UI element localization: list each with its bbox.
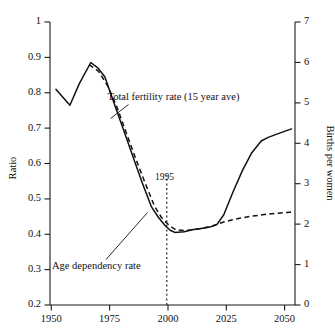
- age-dependency-rate-leader-line: [106, 213, 148, 260]
- age-dependency-rate-label: Age dependency rate: [52, 260, 141, 271]
- y-tick-label: 0.2: [28, 298, 41, 309]
- y2-tick-label: 5: [304, 96, 309, 107]
- y-tick-label: 0.9: [28, 51, 41, 62]
- y2-tick-label: 3: [304, 177, 309, 188]
- y-axis-left-title: Ratio: [7, 157, 18, 180]
- x-axis-ticks: [51, 305, 284, 311]
- y-tick-label: 0.3: [28, 263, 41, 274]
- y-tick-label: 0.8: [28, 86, 41, 97]
- x-axis-tick-labels: 1950 1975 2000 2025 2050: [41, 313, 295, 324]
- x-tick-label: 2050: [274, 313, 295, 324]
- series-age-dependency-rate: [56, 63, 292, 233]
- y2-tick-label: 1: [304, 258, 309, 269]
- y-axis-right-title: Births per women: [325, 125, 335, 201]
- x-tick-label: 2000: [158, 313, 179, 324]
- y-axis-right-ticks: [295, 22, 301, 305]
- line-chart: 1 0.9 0.8 0.7 0.6 0.5 0.4 0.3 0.2 7 6 5 …: [0, 0, 335, 336]
- x-tick-label: 2025: [216, 313, 237, 324]
- x-tick-label: 1975: [99, 313, 120, 324]
- y-axis-right-tick-labels: 7 6 5 4 3 2 1 0: [304, 15, 310, 309]
- y-tick-label: 0.7: [28, 122, 41, 133]
- x-tick-label: 1950: [41, 313, 62, 324]
- y2-tick-label: 4: [304, 137, 310, 148]
- y-tick-label: 1: [36, 15, 41, 26]
- y2-tick-label: 0: [304, 298, 309, 309]
- y-tick-label: 0.4: [28, 228, 42, 239]
- series-total-fertility-rate: [89, 65, 292, 231]
- year-marker-label: 1995: [155, 172, 174, 182]
- y-axis-left-ticks: [45, 22, 51, 305]
- y2-tick-label: 2: [304, 218, 309, 229]
- y-tick-label: 0.6: [28, 157, 41, 168]
- chart-container: 1 0.9 0.8 0.7 0.6 0.5 0.4 0.3 0.2 7 6 5 …: [0, 0, 335, 336]
- y2-tick-label: 7: [304, 15, 309, 26]
- y2-tick-label: 6: [304, 56, 309, 67]
- y-tick-label: 0.5: [28, 192, 41, 203]
- total-fertility-rate-label: Total fertility rate (15 year ave): [108, 91, 240, 103]
- y-axis-left-tick-labels: 1 0.9 0.8 0.7 0.6 0.5 0.4 0.3 0.2: [28, 15, 42, 309]
